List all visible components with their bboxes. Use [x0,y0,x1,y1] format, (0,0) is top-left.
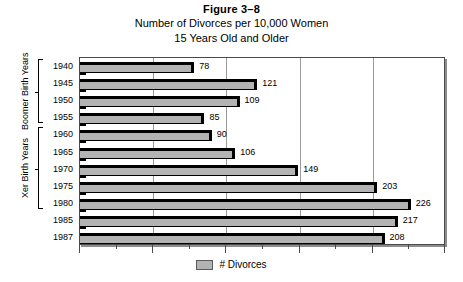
group-label-boomer: Boomer Birth Years [21,53,30,131]
y-label-1955: 1955 [53,113,73,122]
bar-base-stub [80,72,86,75]
bar-base-stub [80,106,86,109]
x-tick-175 [335,245,336,249]
figure-3-8: Figure 3–8 Number of Divorces per 10,000… [0,0,463,282]
bar-row [80,96,444,107]
bar-1980 [80,199,411,210]
x-tick-150 [299,245,300,253]
bar-row [80,216,444,227]
bar-value-1975: 203 [382,182,397,191]
legend: # Divorces [0,260,463,270]
figure-title-line-2: 15 Years Old and Older [0,31,463,46]
bracket-boomer-birth-years [38,59,43,123]
x-tick-200 [372,245,373,253]
figure-number: Figure 3–8 [0,2,463,16]
x-tick-75 [189,245,190,249]
bar-1987 [80,233,385,244]
title-block: Figure 3–8 Number of Divorces per 10,000… [0,2,463,46]
y-label-1970: 1970 [53,165,73,174]
bar-1965 [80,148,235,159]
y-label-1965: 1965 [53,148,73,157]
bar-row [80,165,444,176]
y-label-1940: 1940 [53,62,73,71]
bar-row [80,62,444,73]
group-label-xer: Xer Birth Years [21,138,30,198]
bar-value-1985: 217 [403,216,418,225]
bar-base-stub [80,89,86,92]
bar-1960 [80,130,212,141]
x-tick-225 [408,245,409,249]
y-label-1985: 1985 [53,216,73,225]
legend-swatch-divorces [196,260,213,270]
bar-base-stub [80,175,86,178]
bar-1970 [80,165,298,176]
bracket-nub [35,92,39,93]
y-label-1975: 1975 [53,182,73,191]
bar-value-1955: 85 [209,113,219,122]
y-label-1980: 1980 [53,199,73,208]
bar-base-stub [80,140,86,143]
x-tick-50 [152,245,153,253]
bar-value-1950: 109 [245,96,260,105]
bar-value-1970: 149 [303,165,318,174]
bar-base-stub [80,226,86,229]
x-tick-125 [262,245,263,249]
bar-value-1980: 226 [416,199,431,208]
bar-row [80,130,444,141]
bar-row [80,148,444,159]
bar-1945 [80,79,257,90]
bar-row [80,113,444,124]
y-label-1950: 1950 [53,96,73,105]
bar-value-1945: 121 [262,79,277,88]
figure-title-line-1: Number of Divorces per 10,000 Women [0,16,463,31]
bar-row [80,199,444,210]
bar-1985 [80,216,398,227]
x-axis-ticks [79,245,445,255]
bar-1975 [80,182,377,193]
y-label-1987: 1987 [53,233,73,242]
bar-value-1960: 90 [217,130,227,139]
x-tick-100 [225,245,226,253]
bracket-nub [35,169,39,170]
x-tick-25 [116,245,117,249]
x-tick-0 [79,245,80,253]
bar-1950 [80,96,240,107]
x-tick-250 [444,245,445,253]
bar-1955 [80,113,204,124]
bar-1940 [80,62,194,73]
bar-base-stub [80,158,86,161]
bar-base-stub [80,209,86,212]
bar-value-1940: 78 [199,62,209,71]
bar-value-1965: 106 [240,148,255,157]
bar-base-stub [80,123,86,126]
bar-base-stub [80,192,86,195]
y-label-1960: 1960 [53,130,73,139]
bar-value-1987: 208 [390,233,405,242]
y-label-1945: 1945 [53,79,73,88]
bracket-xer-birth-years [38,127,43,208]
legend-label-divorces: # Divorces [219,260,266,270]
